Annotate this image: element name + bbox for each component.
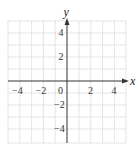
- y-axis-arrow-icon: [65, 18, 70, 25]
- x-tick-label: −4: [12, 85, 23, 96]
- y-tick-label: 4: [59, 27, 64, 38]
- y-axis-label: y: [63, 5, 70, 19]
- y-tick-label: 2: [59, 51, 64, 62]
- x-axis-arrow-icon: [122, 79, 129, 84]
- x-axis: [8, 79, 129, 84]
- coordinate-plane: x y −4 −2 0 2 4 4 2 −2 −4: [0, 0, 139, 148]
- x-axis-label: x: [129, 74, 136, 88]
- y-tick-label: −4: [54, 123, 65, 134]
- x-tick-label: −2: [36, 85, 47, 96]
- y-tick-label: −2: [54, 99, 65, 110]
- x-tick-label: 0: [58, 85, 63, 96]
- x-tick-label: 4: [112, 85, 117, 96]
- x-tick-label: 2: [88, 85, 93, 96]
